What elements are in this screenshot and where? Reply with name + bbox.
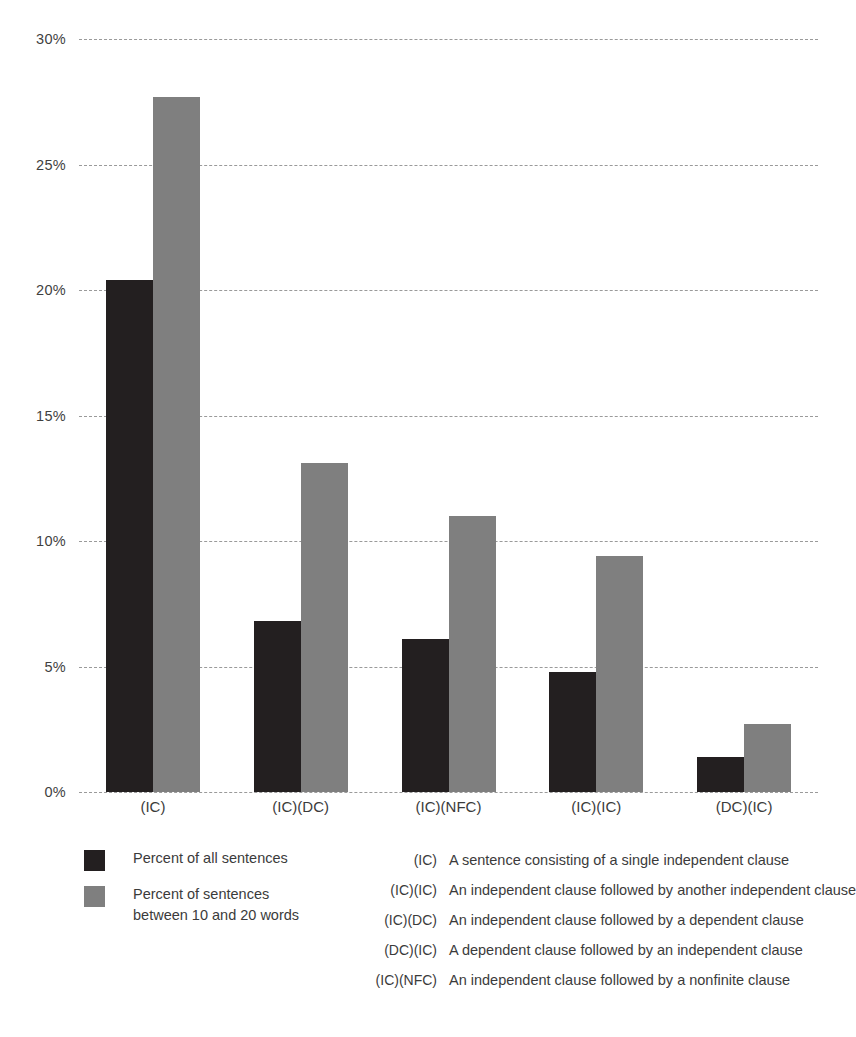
bar	[744, 724, 791, 792]
y-axis-tick-label: 0%	[6, 784, 66, 800]
y-axis: 30%25%20%15%10%5%0%	[0, 39, 66, 792]
bar	[106, 280, 153, 792]
bar-group	[402, 39, 496, 792]
key-code: (IC)(IC)	[345, 882, 437, 898]
x-axis-tick-label: (IC)(DC)	[227, 798, 375, 815]
key-description: An independent clause followed by a nonf…	[449, 972, 790, 988]
key-code: (DC)(IC)	[345, 942, 437, 958]
y-axis-tick-label: 10%	[6, 533, 66, 549]
legend-swatch-icon	[84, 886, 105, 907]
key-code: (IC)(DC)	[345, 912, 437, 928]
key-description: An independent clause followed by anothe…	[449, 882, 856, 898]
x-axis-tick-label: (DC)(IC)	[670, 798, 818, 815]
bar	[449, 516, 496, 792]
x-axis-tick-label: (IC)(IC)	[522, 798, 670, 815]
bar-group	[697, 39, 791, 792]
legend-item: Percent of sentences between 10 and 20 w…	[84, 884, 334, 926]
key-row: (IC)(NFC) An independent clause followed…	[345, 972, 835, 1002]
y-axis-tick-label: 30%	[6, 31, 66, 47]
gridline	[79, 792, 818, 793]
bar	[153, 97, 200, 792]
key-row: (IC) A sentence consisting of a single i…	[345, 852, 835, 882]
key-code: (IC)	[345, 852, 437, 868]
y-axis-tick-label: 25%	[6, 157, 66, 173]
key-row: (IC)(DC) An independent clause followed …	[345, 912, 835, 942]
bars-layer	[79, 39, 818, 792]
bar	[697, 757, 744, 792]
legend-swatch-icon	[84, 850, 105, 871]
x-axis: (IC)(IC)(DC)(IC)(NFC)(IC)(IC)(DC)(IC)	[79, 798, 818, 824]
bar	[596, 556, 643, 792]
key-row: (IC)(IC) An independent clause followed …	[345, 882, 835, 912]
bar-group	[549, 39, 643, 792]
bar	[254, 621, 301, 792]
y-axis-tick-label: 15%	[6, 408, 66, 424]
key-code: (IC)(NFC)	[345, 972, 437, 988]
legend-item-label: Percent of sentences between 10 and 20 w…	[133, 884, 334, 926]
bar	[549, 672, 596, 792]
legend-item-label: Percent of all sentences	[133, 848, 334, 869]
key-description: A dependent clause followed by an indepe…	[449, 942, 803, 958]
key-description: An independent clause followed by a depe…	[449, 912, 804, 928]
x-axis-tick-label: (IC)(NFC)	[375, 798, 523, 815]
abbreviation-key: (IC) A sentence consisting of a single i…	[345, 852, 835, 1002]
x-axis-tick-label: (IC)	[79, 798, 227, 815]
chart-legend: Percent of all sentences Percent of sent…	[84, 848, 334, 940]
bar	[402, 639, 449, 792]
y-axis-tick-label: 5%	[6, 659, 66, 675]
key-row: (DC)(IC) A dependent clause followed by …	[345, 942, 835, 972]
bar	[301, 463, 348, 792]
legend-item: Percent of all sentences	[84, 848, 334, 870]
key-description: A sentence consisting of a single indepe…	[449, 852, 789, 868]
bar-group	[106, 39, 200, 792]
bar-group	[254, 39, 348, 792]
y-axis-tick-label: 20%	[6, 282, 66, 298]
